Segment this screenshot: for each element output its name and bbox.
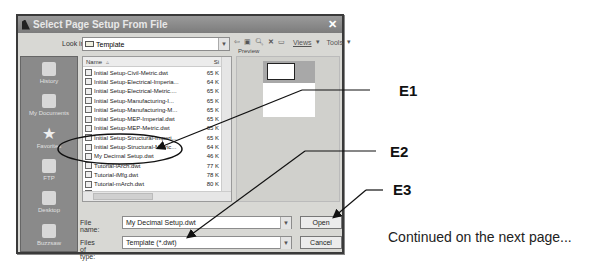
- annotation-e3: E3: [393, 181, 411, 198]
- annotation-overlay: [0, 0, 590, 265]
- highlight-ellipse: [58, 134, 182, 164]
- annotation-e1: E1: [399, 82, 417, 99]
- annotation-e2: E2: [390, 143, 408, 160]
- continued-text: Continued on the next page...: [388, 229, 572, 245]
